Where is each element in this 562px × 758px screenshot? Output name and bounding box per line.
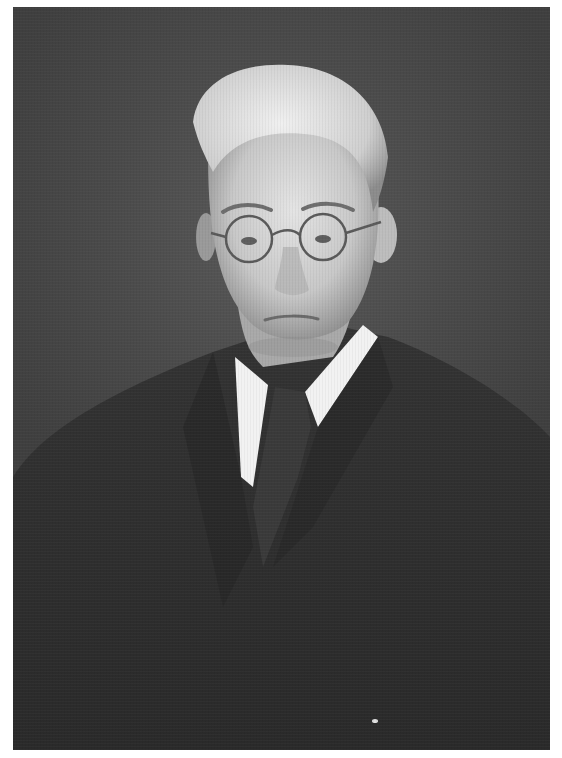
portrait-photo: [13, 7, 550, 750]
eye-right: [315, 235, 331, 243]
eye-left: [241, 237, 257, 245]
suit-highlight-speck: [372, 719, 378, 723]
portrait-figure: [13, 7, 550, 750]
